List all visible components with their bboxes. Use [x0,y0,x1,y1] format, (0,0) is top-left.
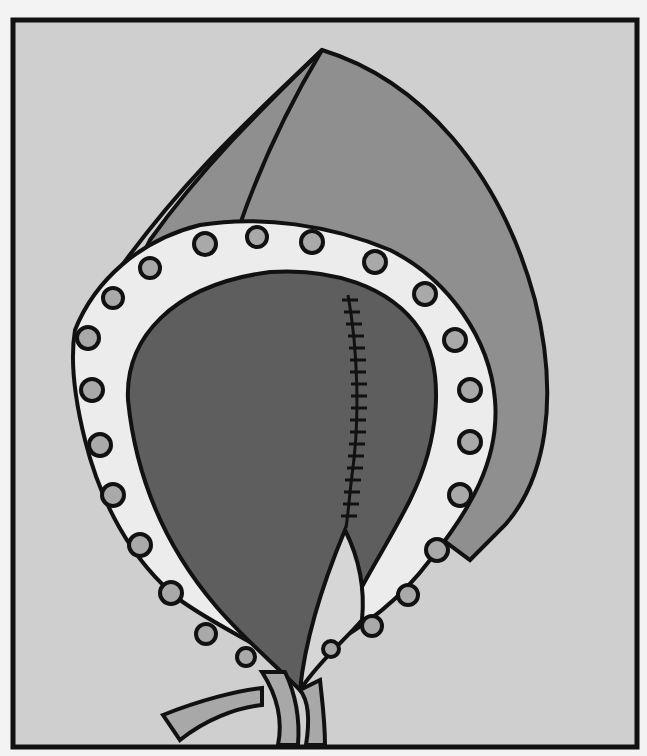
bonnet-illustration [0,0,647,756]
illustration-frame [0,0,647,756]
